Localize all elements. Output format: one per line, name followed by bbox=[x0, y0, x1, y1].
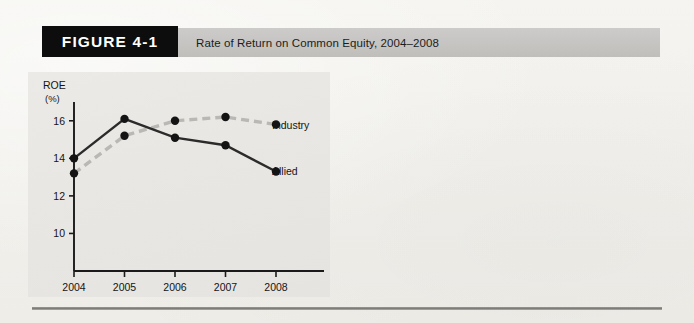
data-point-marker bbox=[221, 141, 229, 149]
x-axis-tick-label: 2007 bbox=[214, 281, 238, 293]
data-point-marker bbox=[120, 132, 128, 140]
chart-panel: ROE (%) 10121416 20042005200620072008 In… bbox=[28, 72, 330, 297]
y-axis-tick-label: 12 bbox=[53, 190, 65, 202]
x-axis-tick-label: 2008 bbox=[264, 281, 288, 293]
series-markers-industry bbox=[70, 113, 280, 178]
y-axis-tick-label: 10 bbox=[53, 227, 65, 239]
data-point-marker bbox=[171, 133, 179, 141]
data-point-marker bbox=[120, 115, 128, 123]
roe-line-chart: ROE (%) 10121416 20042005200620072008 In… bbox=[28, 72, 330, 297]
figure-number-badge: FIGURE 4-1 bbox=[42, 26, 178, 57]
y-axis-tick-label: 14 bbox=[53, 152, 65, 164]
y-axis-ticks: 10121416 bbox=[53, 115, 74, 240]
svg-text:ROE: ROE bbox=[43, 79, 66, 91]
legend-label-industry: Industry bbox=[272, 119, 310, 131]
x-axis-tick-label: 2005 bbox=[113, 281, 137, 293]
svg-text:(%): (%) bbox=[45, 93, 60, 104]
y-axis-tick-label: 16 bbox=[53, 115, 65, 127]
x-axis-tick-label: 2004 bbox=[62, 281, 86, 293]
x-axis-tick-label: 2006 bbox=[163, 281, 187, 293]
page-bottom-rule bbox=[32, 307, 662, 310]
data-point-marker bbox=[171, 117, 179, 125]
data-point-marker bbox=[221, 113, 229, 121]
x-axis-ticks: 20042005200620072008 bbox=[62, 271, 288, 293]
figure-caption: Rate of Return on Common Equity, 2004–20… bbox=[196, 28, 439, 57]
data-point-marker bbox=[70, 169, 78, 177]
data-point-marker bbox=[70, 154, 78, 162]
series-line-industry bbox=[74, 117, 276, 173]
legend-label-allied: Allied bbox=[272, 165, 298, 177]
figure-number-label: FIGURE 4-1 bbox=[62, 33, 158, 51]
series-line-allied bbox=[74, 119, 276, 172]
y-axis-title: ROE (%) bbox=[43, 79, 66, 104]
